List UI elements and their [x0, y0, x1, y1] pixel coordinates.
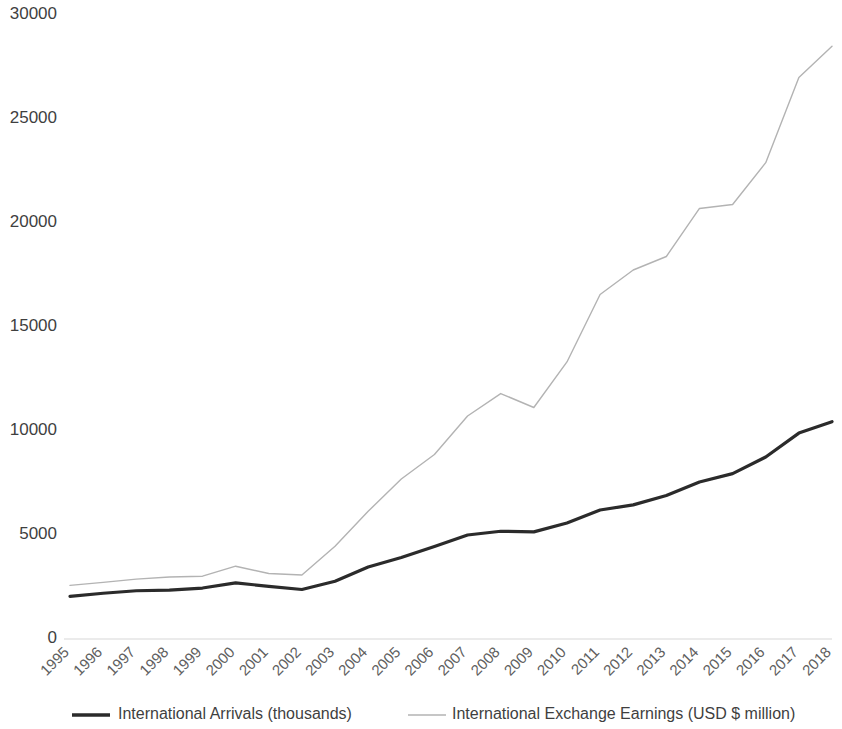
- chart-container: 050001000015000200002500030000 199519961…: [0, 0, 842, 729]
- chart-legend: International Arrivals (thousands)Intern…: [72, 705, 795, 722]
- x-axis-tick-label: 1999: [169, 643, 205, 679]
- x-axis-tick-label: 2018: [799, 643, 835, 679]
- x-axis-tick-labels: 1995199619971998199920002001200220032004…: [37, 643, 835, 679]
- x-axis-tick-label: 2000: [202, 643, 238, 679]
- x-axis-tick-label: 2013: [633, 643, 669, 679]
- x-axis-tick-label: 2001: [235, 643, 271, 679]
- x-axis-tick-label: 2014: [666, 643, 702, 679]
- series-line-2: [70, 46, 832, 585]
- line-chart: 050001000015000200002500030000 199519961…: [0, 0, 842, 729]
- y-axis-tick-label: 15000: [10, 316, 57, 335]
- y-axis-tick-label: 20000: [10, 212, 57, 231]
- y-axis-tick-label: 5000: [19, 524, 57, 543]
- y-axis-tick-label: 25000: [10, 108, 57, 127]
- y-axis-tick-label: 0: [48, 628, 57, 647]
- y-axis-tick-label: 30000: [10, 4, 57, 23]
- x-axis-tick-label: 2012: [600, 643, 636, 679]
- x-axis-tick-label: 2015: [699, 643, 735, 679]
- x-axis-tick-label: 2002: [268, 643, 304, 679]
- x-axis-tick-label: 1997: [103, 643, 139, 679]
- series-line-1: [70, 422, 832, 597]
- x-axis-tick-label: 1995: [37, 643, 73, 679]
- x-axis-tick-label: 2010: [533, 643, 569, 679]
- x-axis-tick-label: 2008: [467, 643, 503, 679]
- x-axis-tick-label: 2009: [500, 643, 536, 679]
- x-axis-tick-label: 1998: [136, 643, 172, 679]
- x-axis-tick-label: 2016: [732, 643, 768, 679]
- x-axis-tick-label: 2017: [765, 643, 801, 679]
- legend-label-2: International Exchange Earnings (USD $ m…: [452, 705, 795, 722]
- x-axis-tick-label: 2005: [368, 643, 404, 679]
- x-axis-tick-label: 2004: [335, 643, 371, 679]
- y-axis-tick-label: 10000: [10, 420, 57, 439]
- legend-label-1: International Arrivals (thousands): [118, 705, 352, 722]
- x-axis-tick-label: 2006: [401, 643, 437, 679]
- x-axis-tick-label: 2003: [302, 643, 338, 679]
- x-axis-tick-label: 2007: [434, 643, 470, 679]
- series-lines: [70, 46, 832, 596]
- x-axis-tick-label: 1996: [70, 643, 106, 679]
- y-axis-tick-labels: 050001000015000200002500030000: [10, 4, 57, 647]
- x-axis-tick-label: 2011: [567, 643, 602, 678]
